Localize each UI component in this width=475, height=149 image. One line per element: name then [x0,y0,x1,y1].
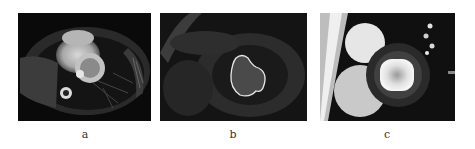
panel-a-label: a [75,128,95,141]
panel-a-image [18,13,151,121]
panel-b-image [160,13,307,121]
panel-c-label: c [377,128,397,141]
mri-axial-image [18,13,151,121]
mri-short-axis-contour-image [160,13,307,121]
panel-b-label: b [223,128,243,141]
panel-c-image [320,13,455,121]
mri-short-axis-bright-image [320,13,455,121]
